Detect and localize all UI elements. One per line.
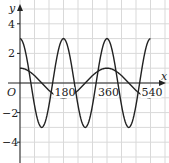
y-axis-arrow-icon	[17, 4, 23, 11]
y-tick-label: −4	[2, 136, 18, 149]
axes	[8, 4, 166, 163]
x-tick-label: 540	[142, 86, 163, 99]
y-tick-label: −2	[2, 107, 18, 120]
y-tick-label: 2	[8, 47, 15, 60]
origin-label: O	[7, 86, 16, 99]
y-axis-label: y	[8, 2, 16, 15]
x-tick-label: 360	[98, 86, 119, 99]
grid	[20, 0, 169, 163]
x-tick-label: 180	[55, 86, 76, 99]
y-tick-label: 4	[8, 18, 15, 31]
x-axis-label: x	[161, 70, 168, 83]
trig-graph: x y O 18036054042−2−4	[0, 0, 169, 163]
